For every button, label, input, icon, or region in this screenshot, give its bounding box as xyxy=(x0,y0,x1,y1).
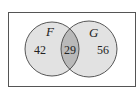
g-only-count: 56 xyxy=(97,43,109,57)
f-only-count: 42 xyxy=(34,43,46,57)
set-label-f: F xyxy=(45,24,55,39)
intersection-count: 29 xyxy=(64,43,76,57)
venn-diagram: F G 42 29 56 xyxy=(0,0,140,95)
set-label-g: G xyxy=(89,25,99,40)
